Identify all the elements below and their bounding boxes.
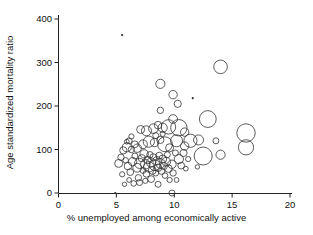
- data-point-bubble: [216, 150, 225, 159]
- y-axis-title-container: Age standardized mortality ratio: [2, 0, 18, 205]
- data-point-bubble: [172, 150, 178, 156]
- y-axis-tick-label: 300: [20, 58, 52, 68]
- data-point-bubble: [155, 181, 161, 187]
- y-axis-tick-label: 400: [20, 14, 52, 24]
- data-point-bubble: [123, 158, 129, 164]
- y-axis-title: Age standardized mortality ratio: [5, 36, 16, 170]
- data-point-bubble: [174, 178, 179, 183]
- data-point-bubble: [127, 169, 134, 176]
- data-point-dot: [114, 192, 116, 194]
- data-point-bubble: [141, 159, 151, 169]
- data-point-bubble: [167, 177, 172, 182]
- scatter-plot: 0100200300400 05101520: [0, 0, 313, 235]
- data-point-bubble: [214, 60, 228, 74]
- data-point-bubble: [186, 156, 191, 161]
- data-point-bubble: [131, 181, 137, 187]
- x-axis-title: % unemployed among economically active: [0, 212, 313, 223]
- data-point-dot: [192, 97, 194, 99]
- data-point-bubble: [156, 79, 165, 88]
- data-point-bubble: [153, 133, 159, 139]
- data-point-bubble: [127, 178, 132, 183]
- y-axis-tick-label: 0: [20, 188, 52, 198]
- data-point-bubble: [129, 134, 134, 139]
- data-point-bubble: [195, 165, 199, 169]
- data-point-bubble: [166, 144, 174, 152]
- plot-canvas: [0, 0, 313, 235]
- y-axis-tick-label: 100: [20, 145, 52, 155]
- x-axis-tick-label: 15: [227, 200, 238, 210]
- data-point-bubble: [141, 126, 151, 136]
- x-axis-tick-label: 0: [56, 200, 61, 210]
- data-point-bubble: [124, 139, 129, 144]
- data-point-bubble: [213, 138, 219, 144]
- data-point-bubble: [194, 147, 212, 165]
- data-point-bubble: [122, 182, 126, 186]
- figure-container: 0100200300400 05101520 Age standardized …: [0, 0, 313, 235]
- data-point-bubble: [148, 176, 155, 183]
- data-point-bubble: [164, 152, 170, 158]
- y-axis-ticks: [55, 19, 59, 193]
- data-point-bubble: [183, 166, 188, 171]
- data-point-bubble: [143, 136, 154, 147]
- data-point-bubble: [199, 111, 216, 128]
- data-point-bubble: [170, 170, 176, 176]
- x-axis-tick-label: 10: [169, 200, 180, 210]
- data-point-bubble: [162, 173, 168, 179]
- data-point-bubble: [157, 107, 163, 113]
- data-point-bubble: [169, 90, 177, 98]
- data-point-bubble: [174, 100, 181, 107]
- data-point-bubble: [143, 178, 148, 183]
- x-axis-tick-label: 5: [114, 200, 119, 210]
- x-axis-ticks: [59, 194, 291, 198]
- y-axis-tick-label: 200: [20, 101, 52, 111]
- data-point-bubble: [158, 137, 173, 152]
- data-point-bubble: [137, 125, 145, 133]
- data-point-dot: [121, 34, 123, 36]
- x-axis-tick-label: 20: [285, 200, 296, 210]
- data-point-group: [114, 34, 255, 196]
- data-point-bubble: [120, 172, 125, 177]
